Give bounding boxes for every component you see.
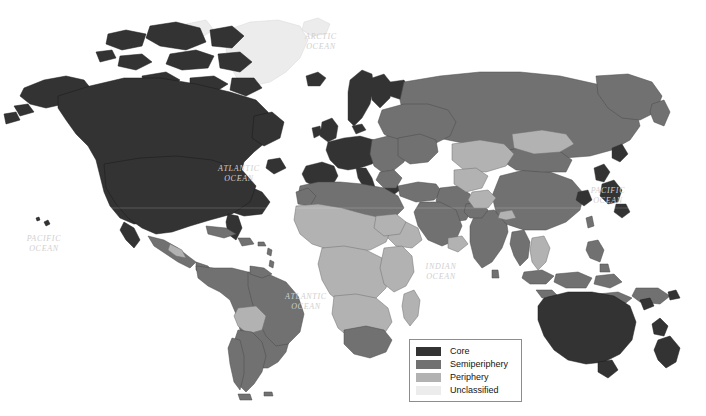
map-legend: Core Semiperiphery Periphery Unclassifie… [409,339,522,402]
legend-item-unclassified: Unclassified [416,384,515,396]
legend-item-semiperiphery: Semiperiphery [416,358,515,370]
legend-item-core: Core [416,345,515,357]
legend-label-semiperiphery: Semiperiphery [450,359,508,369]
legend-label-unclassified: Unclassified [450,385,499,395]
legend-swatch-semiperiphery [416,360,441,369]
legend-swatch-periphery [416,373,441,382]
world-map-canvas: .core { fill:#333333; stroke:#333333; st… [0,0,706,416]
legend-label-periphery: Periphery [450,372,489,382]
legend-swatch-unclassified [416,386,441,395]
legend-label-core: Core [450,346,470,356]
legend-swatch-core [416,347,441,356]
world-map-figure: World-Systems Theory .core { fill:#33333… [0,0,706,416]
legend-item-periphery: Periphery [416,371,515,383]
